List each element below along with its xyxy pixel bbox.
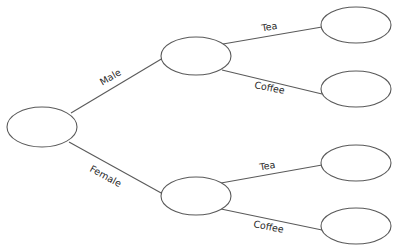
node-male-tea: [321, 7, 391, 43]
node-female-tea: [321, 145, 391, 181]
edge-label-female: Female: [88, 163, 124, 189]
node-female-coffee: [321, 208, 391, 244]
node-male-coffee: [321, 71, 391, 107]
node-root: [7, 107, 77, 147]
edge-label-male-tea: Tea: [260, 20, 279, 34]
node-female: [161, 177, 231, 215]
node-male: [161, 37, 231, 75]
tree-diagram: Male Female Tea Coffee Tea Coffee: [0, 0, 394, 247]
edge-label-female-tea: Tea: [258, 159, 277, 173]
edge-label-male-coffee: Coffee: [254, 79, 286, 96]
